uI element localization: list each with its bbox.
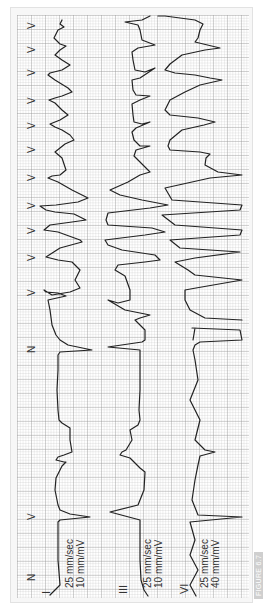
beat-label-v: V [26, 146, 37, 153]
lead-iii-trace [105, 16, 168, 596]
beat-label-v: V [26, 513, 37, 520]
lead-label-vi: VI [178, 584, 190, 594]
beat-label-v: V [26, 289, 37, 296]
lead-i-speed: 25 mm/sec [65, 539, 75, 588]
beat-label-v: V [26, 22, 37, 29]
beat-label-n: N [26, 574, 37, 581]
lead-iii-gain: 10 mm/mV [154, 540, 164, 588]
beat-label-v: V [26, 174, 37, 181]
lead-label-i: I [40, 591, 52, 594]
beat-label-v: V [26, 202, 37, 209]
beat-label-v: V [26, 254, 37, 261]
ecg-traces [0, 0, 266, 608]
lead-vi-speed: 25 mm/sec [200, 539, 210, 588]
beat-label-v: V [26, 122, 37, 129]
lead-vi-gain: 40 mm/mV [211, 540, 221, 588]
beat-label-v: V [26, 69, 37, 76]
beat-label-n: N [26, 346, 37, 353]
beat-label-v: V [26, 46, 37, 53]
lead-vi-trace [158, 16, 242, 596]
lead-i-gain: 10 mm/mV [76, 540, 86, 588]
lead-label-iii: III [117, 585, 129, 594]
lead-i-trace [40, 20, 92, 595]
figure-label: FIGURE 6.7 [254, 552, 263, 599]
lead-iii-speed: 25 mm/sec [143, 539, 153, 588]
beat-label-v: V [26, 227, 37, 234]
beat-label-v: V [26, 97, 37, 104]
